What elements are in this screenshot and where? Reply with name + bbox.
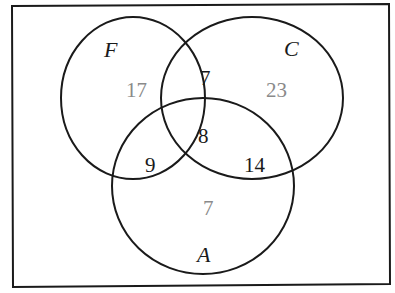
region-f-c: 7 xyxy=(200,66,211,90)
region-c-a: 14 xyxy=(244,153,266,177)
region-a-only: 7 xyxy=(203,196,214,220)
set-c-label: C xyxy=(284,36,299,61)
region-f-a: 9 xyxy=(145,153,156,177)
set-f-label: F xyxy=(103,37,118,62)
set-a-label: A xyxy=(195,242,211,267)
region-f-only: 17 xyxy=(126,78,147,102)
region-f-c-a: 8 xyxy=(198,124,209,148)
venn-diagram: F C A 17 23 7 7 8 9 14 xyxy=(0,0,395,293)
region-c-only: 23 xyxy=(266,78,287,102)
